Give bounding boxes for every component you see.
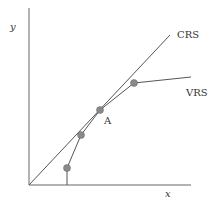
- vrs-frontier: [67, 77, 191, 185]
- observation-point: [64, 165, 71, 172]
- y-axis-label: y: [9, 21, 16, 32]
- x-axis-label: x: [165, 188, 171, 199]
- point-a-label: A: [103, 115, 112, 126]
- observation-point-a: [97, 107, 104, 114]
- observation-point: [131, 80, 138, 87]
- crs-label: CRS: [177, 29, 199, 40]
- vrs-label: VRS: [185, 87, 208, 98]
- frontier-diagram: y x CRS VRS A: [0, 0, 215, 203]
- observation-point: [78, 132, 85, 139]
